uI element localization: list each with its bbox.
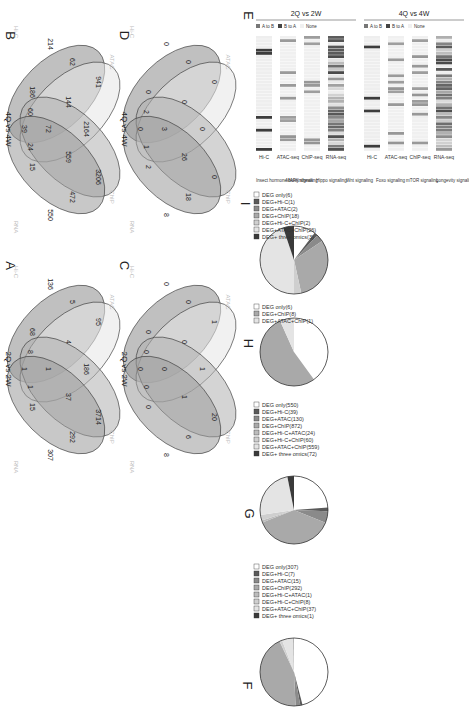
heatmap-cell	[304, 103, 320, 106]
venn-region-count: 0	[211, 80, 218, 84]
legend-label: DEG+ATAC(15)	[262, 578, 301, 584]
venn-region-count: 2164	[83, 121, 90, 137]
heatmap-cell	[256, 84, 272, 87]
heatmap-cell	[256, 52, 272, 55]
heatmap-cell	[328, 110, 344, 113]
heatmap-cell	[304, 129, 320, 132]
heatmap-cell	[256, 74, 272, 77]
heatmap-legend-label: None	[414, 24, 425, 29]
heatmap-cell	[388, 49, 404, 52]
heatmap-cell	[412, 97, 428, 100]
heatmap-cell	[436, 52, 452, 55]
heatmap-cell	[280, 100, 296, 103]
heatmap-cell	[280, 103, 296, 106]
heatmap-cell	[436, 84, 452, 87]
heatmap-cell	[436, 142, 452, 145]
legend-label: DEG+ATAC(2)	[262, 206, 298, 212]
heatmap-cell	[280, 116, 296, 119]
heatmap-cell	[280, 129, 296, 132]
heatmap-cell	[256, 122, 272, 125]
venn-region-count: 0	[143, 350, 150, 354]
heatmap-cell	[412, 129, 428, 132]
venn-comparison-label: 4Q vs 4W	[4, 111, 13, 147]
venn-region-count: 15	[29, 163, 36, 171]
heatmap-cell	[364, 135, 380, 138]
heatmap-cell	[256, 135, 272, 138]
heatmap-cell	[280, 94, 296, 97]
heatmap-cell	[364, 132, 380, 135]
pie-chart-f: DEG only(307)DEG+Hi-C(7)DEG+ATAC(15)DEG+…	[250, 560, 340, 710]
legend-label: DEG+ATAC(130)	[262, 416, 304, 422]
venn-region-count: 559	[65, 151, 72, 163]
legend-swatch	[254, 585, 259, 590]
heatmap-legend-swatch	[278, 24, 282, 28]
heatmap-cell	[304, 71, 320, 74]
heatmap-cell	[328, 55, 344, 58]
legend-label: DEG+Hi-C+ChIP(8)	[262, 599, 310, 605]
heatmap-cell	[364, 74, 380, 77]
heatmap-cell	[364, 138, 380, 141]
heatmap-cell	[328, 103, 344, 106]
heatmap-cell	[412, 46, 428, 49]
legend-label: DEG+Hi-C+ChIP(2)	[262, 220, 310, 226]
heatmap-cell	[388, 142, 404, 145]
heatmap-cell	[328, 116, 344, 119]
heatmap-legend-label: B to A	[392, 24, 404, 29]
heatmap-cell	[328, 62, 344, 65]
heatmap-cell	[364, 39, 380, 42]
heatmap-cell	[412, 81, 428, 84]
heatmap-cell	[412, 49, 428, 52]
heatmap-block-title: 4Q vs 4W	[399, 10, 430, 18]
heatmap-cell	[256, 113, 272, 116]
heatmap-cell	[304, 106, 320, 109]
heatmap-cell	[304, 113, 320, 116]
heatmap-cell	[412, 87, 428, 90]
legend-swatch	[254, 564, 259, 569]
venn-region-count: 0	[137, 367, 144, 371]
heatmap-cell	[304, 148, 320, 151]
heatmap-cell	[364, 90, 380, 93]
pathway-label: Foxo signaling	[376, 178, 406, 183]
legend-swatch	[254, 318, 259, 323]
venn-region-count: 72	[45, 125, 52, 133]
venn-set-label: RNA	[129, 461, 135, 474]
venn-svg: 00080018026302210Hi-CATACChIPRNA4Q vs 4W	[124, 22, 234, 237]
heatmap-cell	[388, 90, 404, 93]
heatmap-cell	[256, 71, 272, 74]
heatmap-cell	[388, 145, 404, 148]
heatmap-cell	[412, 126, 428, 129]
heatmap-cell	[304, 145, 320, 148]
heatmap-cell	[280, 68, 296, 71]
heatmap-cell	[388, 94, 404, 97]
heatmap-cell	[328, 49, 344, 52]
heatmap-cell	[280, 106, 296, 109]
heatmap-cell	[328, 97, 344, 100]
heatmap-cell	[412, 122, 428, 125]
heatmap-cell	[304, 84, 320, 87]
venn-region-count: 4	[65, 340, 72, 344]
legend-label: DEG only(6)	[262, 304, 292, 310]
heatmap-cell	[256, 62, 272, 65]
pie-chart-i: DEG only(6)DEG+Hi-C(1)DEG+ATAC(2)DEG+ChI…	[250, 188, 340, 298]
heatmap-legend-swatch	[300, 24, 304, 28]
heatmap-cell	[412, 145, 428, 148]
legend-label: DEG only(6)	[262, 192, 292, 198]
heatmap-cell	[256, 103, 272, 106]
heatmap-cell	[388, 129, 404, 132]
heatmap-cell	[436, 74, 452, 77]
heatmap-cell	[328, 132, 344, 135]
heatmap-cell	[412, 138, 428, 141]
heatmap-cell	[304, 97, 320, 100]
venn-set-label: ChIP	[109, 190, 115, 203]
heatmap-cell	[412, 142, 428, 145]
heatmap-cell	[328, 113, 344, 116]
heatmap-cell	[436, 81, 452, 84]
heatmap-cell	[280, 145, 296, 148]
legend-swatch	[254, 592, 259, 597]
heatmap-column-label: RNA-seq	[326, 154, 347, 160]
heatmap-cell	[256, 106, 272, 109]
heatmap-legend-label: A to B	[262, 24, 274, 29]
heatmap-cell	[436, 138, 452, 141]
heatmap-cell	[388, 148, 404, 151]
heatmap-cell	[364, 46, 380, 49]
